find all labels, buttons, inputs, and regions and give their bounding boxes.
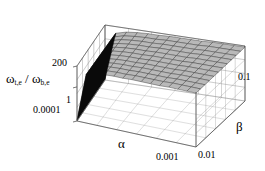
y-axis-label: ωt,e / ωb,e [6,72,50,86]
y-axis-tick-200: 200 [52,58,67,68]
surface-mesh [77,32,245,120]
omega-subscript-te: t,e [15,78,22,87]
ratio-slash: / [22,71,32,86]
z-axis-tick-0.01: 0.01 [198,150,216,160]
omega-subscript-be: b,e [41,78,50,87]
omega-symbol-numerator: ω [6,71,15,86]
surface-plot-figure: ωt,e / ωb,e 200 1 0.0001 α 0.001 β 0.1 0… [0,0,265,171]
x-axis-label: α [118,137,125,150]
x-axis-tick-0.001: 0.001 [156,152,179,162]
y-axis-tick-0.0001: 0.0001 [33,105,61,115]
z-axis-label: β [236,120,243,133]
z-axis-tick-0.1: 0.1 [238,72,251,82]
omega-symbol-denominator: ω [32,71,41,86]
y-axis-tick-1: 1 [66,95,71,105]
